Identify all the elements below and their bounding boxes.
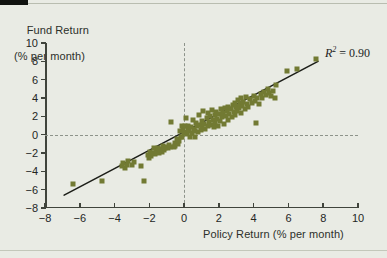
y-axis-title-line1: Fund Return: [27, 24, 89, 36]
scatter-point: [169, 119, 174, 124]
x-axis-tick-label: 4: [251, 212, 257, 224]
figure-screenshot: Fund Return (% per month) −8−6−4−2024681…: [0, 0, 387, 258]
x-axis-tick-label: 10: [352, 212, 364, 224]
top-divider-rule: [28, 3, 387, 4]
y-axis-tick-label: −8: [25, 202, 38, 214]
y-axis-tick-label: 8: [32, 55, 38, 67]
y-axis-tick-label: 10: [26, 37, 38, 49]
scatter-point: [270, 88, 275, 93]
scatter-point: [183, 116, 188, 121]
bottom-divider-rule: [0, 250, 387, 251]
scatter-point: [272, 96, 277, 101]
x-axis-tick-label: 6: [285, 212, 291, 224]
scatter-point: [254, 120, 259, 125]
r-squared-annotation: R2 = 0.90: [325, 45, 370, 61]
scatter-point: [138, 163, 143, 168]
r-squared-value: = 0.90: [336, 46, 370, 60]
scatter-point: [284, 68, 289, 73]
scatter-point: [70, 182, 75, 187]
scatter-point: [131, 160, 136, 165]
y-axis-tick-label: −2: [25, 147, 38, 159]
scatter-point: [246, 105, 251, 110]
y-axis-tick-label: −6: [25, 184, 38, 196]
plot-area: −8−6−4−20246810 −8−6−4−20246810: [45, 43, 358, 208]
scatter-point: [295, 66, 300, 71]
x-axis-tick-label: 8: [320, 212, 326, 224]
y-axis-tick-label: 6: [32, 74, 38, 86]
x-axis-tick-label: −4: [108, 212, 121, 224]
x-axis-tick-label: 0: [181, 212, 187, 224]
x-axis-tick-label: 2: [216, 212, 222, 224]
y-axis-tick-label: −4: [25, 165, 38, 177]
scatter-points: [45, 43, 358, 208]
x-axis-tick-label: −2: [143, 212, 156, 224]
y-axis-tick-label: 4: [32, 92, 38, 104]
scatter-point: [256, 101, 261, 106]
y-axis-tick-label: 2: [32, 110, 38, 122]
y-axis-tick-label: 0: [32, 129, 38, 141]
scatter-point: [274, 83, 279, 88]
scatter-point: [216, 123, 221, 128]
x-axis-title: Policy Return (% per month): [203, 228, 344, 240]
scatter-point: [314, 56, 319, 61]
x-axis-tick-label: −8: [39, 212, 52, 224]
x-axis-tick-label: −6: [73, 212, 86, 224]
page-corner-marker: [0, 0, 28, 5]
scatter-point: [192, 135, 197, 140]
scatter-point: [100, 179, 105, 184]
scatter-point: [142, 178, 147, 183]
